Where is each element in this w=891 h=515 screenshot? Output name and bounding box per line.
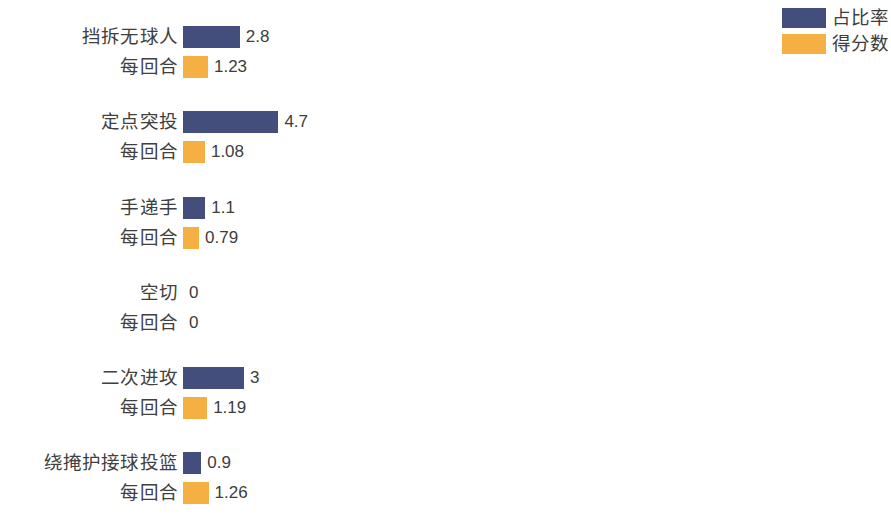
category-label: 绕掩护接球投篮 <box>0 452 178 474</box>
bar-value-label: 0.9 <box>207 452 231 474</box>
bar-rect[interactable] <box>183 56 208 78</box>
bar-rect[interactable] <box>183 227 199 249</box>
bar-rect[interactable] <box>183 197 205 219</box>
category-label: 手递手 <box>0 197 178 219</box>
bar-value-label: 1.1 <box>211 197 235 219</box>
bar-value-label: 4.7 <box>284 111 308 133</box>
bar-track <box>183 452 201 474</box>
legend-label-usage: 占比率 <box>832 6 889 30</box>
bar-rect[interactable] <box>183 367 244 389</box>
bar-row: 空切0 <box>0 282 760 304</box>
bar-group: 二次进攻3每回合1.19 <box>0 367 760 419</box>
bar-row: 每回合0 <box>0 312 760 334</box>
legend-swatch-points-icon <box>782 34 826 54</box>
bar-value-label: 3 <box>250 367 259 389</box>
category-label: 空切 <box>0 282 178 304</box>
bar-rect[interactable] <box>183 111 278 133</box>
bar-row: 挡拆无球人2.8 <box>0 26 760 48</box>
bar-value-label: 1.26 <box>215 482 248 504</box>
bar-track <box>183 227 199 249</box>
bar-value-label: 0 <box>189 282 198 304</box>
bar-rect[interactable] <box>183 141 205 163</box>
per-possession-label: 每回合 <box>0 56 178 78</box>
category-label: 二次进攻 <box>0 367 178 389</box>
per-possession-label: 每回合 <box>0 482 178 504</box>
bar-group: 挡拆无球人2.8每回合1.23 <box>0 26 760 78</box>
bar-track <box>183 367 244 389</box>
bar-group: 空切0每回合0 <box>0 282 760 334</box>
bar-track <box>183 482 209 504</box>
bar-track <box>183 26 240 48</box>
bar-value-label: 0 <box>189 312 198 334</box>
per-possession-label: 每回合 <box>0 227 178 249</box>
bar-row: 每回合1.08 <box>0 141 760 163</box>
legend-label-points: 得分数 <box>832 32 889 56</box>
bar-track <box>183 111 278 133</box>
bar-row: 绕掩护接球投篮0.9 <box>0 452 760 474</box>
bar-rect[interactable] <box>183 452 201 474</box>
bar-row: 每回合1.19 <box>0 397 760 419</box>
bar-track <box>183 197 205 219</box>
bar-value-label: 1.19 <box>213 397 246 419</box>
legend-swatch-usage-icon <box>782 8 826 28</box>
per-possession-label: 每回合 <box>0 397 178 419</box>
bar-row: 每回合1.23 <box>0 56 760 78</box>
per-possession-label: 每回合 <box>0 141 178 163</box>
bar-value-label: 1.23 <box>214 56 247 78</box>
legend-item-points[interactable]: 得分数 <box>782 32 891 56</box>
plot-area: 挡拆无球人2.8每回合1.23定点突投4.7每回合1.08手递手1.1每回合0.… <box>0 0 760 515</box>
bar-row: 每回合0.79 <box>0 227 760 249</box>
grouped-bar-chart: 挡拆无球人2.8每回合1.23定点突投4.7每回合1.08手递手1.1每回合0.… <box>0 0 891 515</box>
bar-track <box>183 141 205 163</box>
category-label: 定点突投 <box>0 111 178 133</box>
bar-rect[interactable] <box>183 26 240 48</box>
bar-value-label: 0.79 <box>205 227 238 249</box>
bar-rect[interactable] <box>183 397 207 419</box>
bar-row: 二次进攻3 <box>0 367 760 389</box>
per-possession-label: 每回合 <box>0 312 178 334</box>
bar-rect[interactable] <box>183 482 209 504</box>
bar-row: 定点突投4.7 <box>0 111 760 133</box>
bar-group: 定点突投4.7每回合1.08 <box>0 111 760 163</box>
bar-value-label: 1.08 <box>211 141 244 163</box>
category-label: 挡拆无球人 <box>0 26 178 48</box>
bar-track <box>183 56 208 78</box>
bar-row: 手递手1.1 <box>0 197 760 219</box>
bar-group: 绕掩护接球投篮0.9每回合1.26 <box>0 452 760 504</box>
chart-legend: 占比率 得分数 <box>782 6 891 58</box>
bar-value-label: 2.8 <box>246 26 270 48</box>
bar-row: 每回合1.26 <box>0 482 760 504</box>
bar-track <box>183 397 207 419</box>
bar-group: 手递手1.1每回合0.79 <box>0 197 760 249</box>
legend-item-usage[interactable]: 占比率 <box>782 6 891 30</box>
